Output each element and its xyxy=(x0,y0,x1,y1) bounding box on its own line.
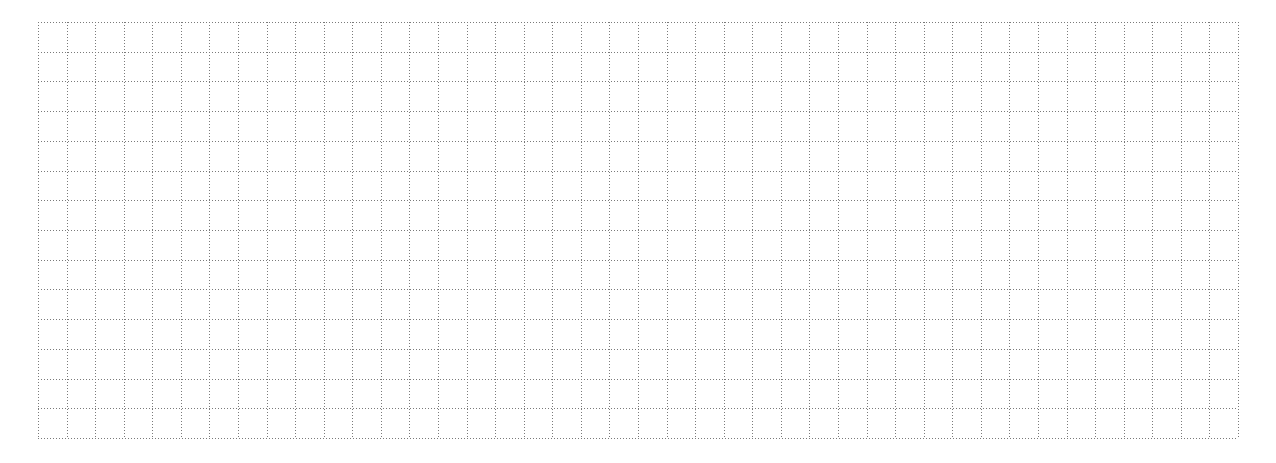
blank-page-canvas xyxy=(0,0,1276,463)
grid-lines xyxy=(38,22,1238,438)
dotted-grid xyxy=(38,22,1238,438)
